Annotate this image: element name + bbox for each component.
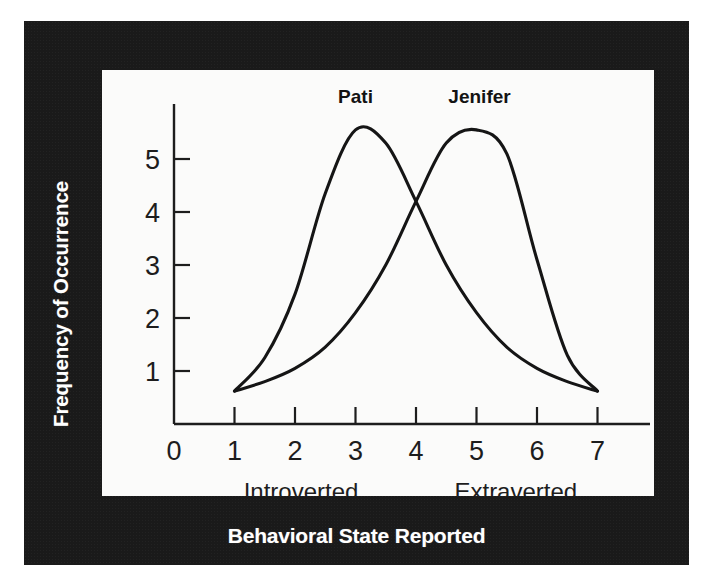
y-axis-title: Frequency of Occurrence <box>46 91 76 517</box>
curve-jenifer <box>235 129 598 391</box>
y-tick-label: 2 <box>145 304 160 334</box>
series-label-pati: Pati <box>338 86 373 107</box>
x-axis-tick-labels: 01234567 <box>166 436 605 466</box>
x-tick-label: 2 <box>287 436 302 466</box>
y-axis-ticks <box>174 159 190 371</box>
x-tick-label: 5 <box>469 436 484 466</box>
x-tick-label: 3 <box>348 436 363 466</box>
axes <box>174 104 650 424</box>
curve-pati <box>235 127 598 391</box>
y-axis-tick-labels: 12345 <box>145 145 160 387</box>
axis-end-labels: IntrovertedExtraverted <box>244 478 578 496</box>
y-tick-label: 3 <box>145 251 160 281</box>
y-tick-label: 5 <box>145 145 160 175</box>
x-axis-ticks <box>235 407 598 424</box>
chart-svg: 12345 01234567 PatiJenifer IntrovertedEx… <box>102 70 654 496</box>
x-tick-label: 0 <box>166 436 181 466</box>
data-curves <box>235 127 598 391</box>
series-annotations: PatiJenifer <box>338 86 511 107</box>
plot-panel: 12345 01234567 PatiJenifer IntrovertedEx… <box>102 70 654 496</box>
y-tick-label: 1 <box>145 357 160 387</box>
x-axis-title: Behavioral State Reported <box>24 524 689 548</box>
figure-container: Frequency of Occurrence Behavioral State… <box>0 0 712 584</box>
x-axis-end-label-introverted: Introverted <box>244 478 359 496</box>
x-axis-end-label-extraverted: Extraverted <box>454 478 577 496</box>
x-tick-label: 7 <box>590 436 605 466</box>
figure-black-mat: Frequency of Occurrence Behavioral State… <box>24 21 689 565</box>
y-tick-label: 4 <box>145 198 160 228</box>
x-tick-label: 6 <box>529 436 544 466</box>
series-label-jenifer: Jenifer <box>448 86 511 107</box>
x-tick-label: 4 <box>408 436 423 466</box>
x-tick-label: 1 <box>227 436 242 466</box>
